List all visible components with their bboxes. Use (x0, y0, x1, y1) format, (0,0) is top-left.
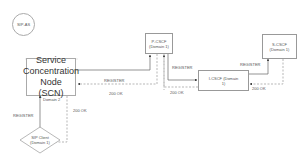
p-cscf-node: P-CSCF (Domain 1) (145, 33, 173, 54)
edge-label-pcscf-scn-200ok: 200 OK (109, 92, 123, 96)
edge-label-icscf-pcscf-200ok: 200 OK (170, 91, 184, 95)
scn-label-line2: Concentration (23, 66, 79, 77)
edge-label-pcscf-icscf-register: REGISTER (172, 66, 192, 70)
sip-as-label: SIP-AS (17, 22, 30, 27)
p-cscf-label-line2: (Domain 1) (149, 44, 169, 49)
sip-client-node: SIP Client (Domain 1) (24, 135, 56, 145)
s-cscf-node: S-CSCF (Domain 1) (262, 34, 297, 59)
s-cscf-label-line2: (Domain 1) (270, 47, 290, 52)
edge-label-client-scn-register: REGISTER (13, 114, 33, 118)
edge-label-scn-client-200ok: 200 OK (73, 109, 87, 113)
scn-node: Service Concentration Node (SCN) (26, 58, 76, 96)
edge-label-icscf-scscf-register: REGISTER (240, 63, 260, 67)
sip-as-node: SIP-AS (12, 13, 35, 36)
edge-label-scscf-icscf-200ok: 200 OK (252, 87, 266, 91)
i-cscf-label-line2: 1) (222, 81, 226, 86)
edge-label-scn-pcscf-register: REGISTER (104, 79, 124, 83)
sip-client-label-line2: (Domain 1) (24, 140, 56, 145)
edge-label-domain-2: Domain 2 (43, 98, 60, 102)
scn-label-line1: Service (36, 55, 66, 66)
i-cscf-node: I-CSCF (Domain 1) (198, 70, 249, 91)
scn-label-line3: Node (SCN) (27, 77, 75, 99)
